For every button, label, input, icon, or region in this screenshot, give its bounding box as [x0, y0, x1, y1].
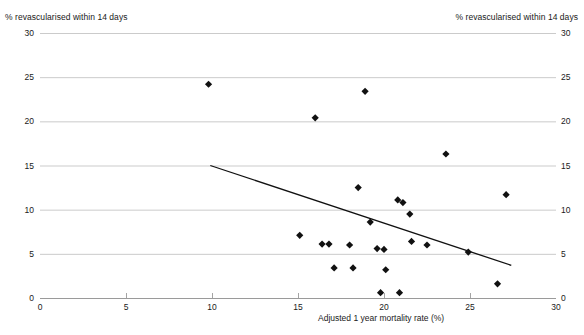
- gridline-group: [40, 34, 556, 299]
- data-point: [423, 241, 430, 248]
- x-tick-label: 0: [28, 303, 52, 312]
- data-point: [374, 245, 381, 252]
- data-point: [312, 114, 319, 121]
- data-point: [318, 241, 325, 248]
- y-tick-label-right: 10: [561, 206, 583, 215]
- x-axis-label: Adjusted 1 year mortality rate (%): [318, 313, 444, 323]
- trendline: [210, 166, 511, 266]
- data-point: [349, 264, 356, 271]
- data-point: [346, 241, 353, 248]
- plot-canvas: [0, 0, 584, 335]
- x-tick-label: 25: [458, 303, 482, 312]
- y-tick-label-right: 20: [561, 117, 583, 126]
- data-point: [408, 238, 415, 245]
- y-tick-label-right: 25: [561, 73, 583, 82]
- x-tick-label: 15: [286, 303, 310, 312]
- scatter-plot-figure: % revascularised within 14 days % revasc…: [0, 0, 584, 335]
- data-point: [503, 191, 510, 198]
- data-point: [205, 81, 212, 88]
- data-point-group: [205, 81, 510, 297]
- data-point: [296, 232, 303, 239]
- y-tick-label-right: 0: [561, 294, 583, 303]
- trendline-path: [210, 166, 511, 266]
- data-point: [494, 280, 501, 287]
- y-tick-label-left: 15: [12, 162, 34, 171]
- x-tick-label: 20: [372, 303, 396, 312]
- y-tick-label-left: 30: [12, 29, 34, 38]
- y-tick-label-left: 10: [12, 206, 34, 215]
- data-point: [442, 150, 449, 157]
- data-point: [325, 241, 332, 248]
- y-tick-label-right: 15: [561, 162, 583, 171]
- y-tick-label-right: 5: [561, 250, 583, 259]
- y-tick-label-left: 0: [12, 294, 34, 303]
- y-tick-label-right: 30: [561, 29, 583, 38]
- data-point: [406, 210, 413, 217]
- y-tick-label-left: 25: [12, 73, 34, 82]
- x-tick-mark-group: [127, 293, 471, 298]
- x-tick-label: 10: [200, 303, 224, 312]
- data-point: [382, 266, 389, 273]
- x-tick-label: 5: [114, 303, 138, 312]
- data-point: [396, 289, 403, 296]
- data-point: [331, 264, 338, 271]
- y-tick-label-left: 20: [12, 117, 34, 126]
- data-point: [380, 246, 387, 253]
- x-tick-label: 30: [544, 303, 568, 312]
- data-point: [355, 184, 362, 191]
- y-tick-label-left: 5: [12, 250, 34, 259]
- data-point: [361, 88, 368, 95]
- data-point: [377, 289, 384, 296]
